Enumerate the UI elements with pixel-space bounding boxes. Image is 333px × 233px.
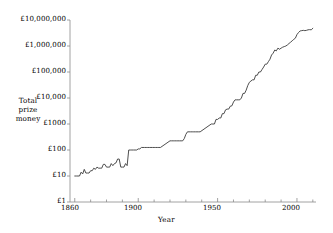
plot-area	[0, 0, 333, 233]
y-tick-marks	[67, 20, 70, 202]
x-tick-marks	[75, 198, 313, 202]
data-line-total-prize-money	[75, 28, 313, 176]
chart-figure: Total prize money Year £10,000,000 £1,00…	[0, 0, 333, 233]
